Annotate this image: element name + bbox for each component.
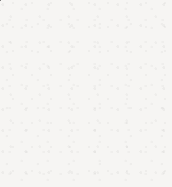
circle-diagram	[0, 0, 172, 187]
figure-canvas	[0, 0, 172, 187]
